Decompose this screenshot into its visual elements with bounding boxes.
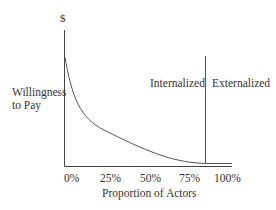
willingness-to-pay-curve	[65, 57, 232, 164]
y-axis-label-line2: to Pay	[12, 99, 66, 112]
y-axis-label: Willingness to Pay	[12, 86, 66, 112]
y-axis-unit-label: $	[60, 12, 66, 25]
x-tick-25: 25%	[100, 172, 121, 185]
x-tick-100: 100%	[214, 172, 241, 185]
x-tick-75: 75%	[179, 172, 200, 185]
x-tick-50: 50%	[140, 172, 161, 185]
y-axis-label-line1: Willingness	[12, 86, 66, 99]
region-label-externalized: Externalized	[212, 77, 270, 90]
region-label-internalized: Internalized	[150, 77, 205, 90]
x-tick-0: 0%	[64, 172, 79, 185]
x-axis-label: Proportion of Actors	[102, 187, 197, 200]
